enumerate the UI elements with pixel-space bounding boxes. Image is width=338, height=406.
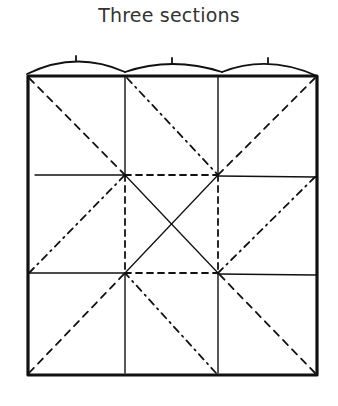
dash-dot-diagonals bbox=[29, 78, 315, 373]
inner-cross bbox=[125, 175, 218, 273]
corner-dashed-diagonals bbox=[29, 78, 315, 373]
arc-section-3 bbox=[222, 64, 317, 76]
arc-section-1 bbox=[27, 61, 125, 74]
section-arcs bbox=[27, 56, 317, 76]
arc-section-2 bbox=[125, 64, 222, 72]
folding-diagram bbox=[0, 0, 338, 406]
